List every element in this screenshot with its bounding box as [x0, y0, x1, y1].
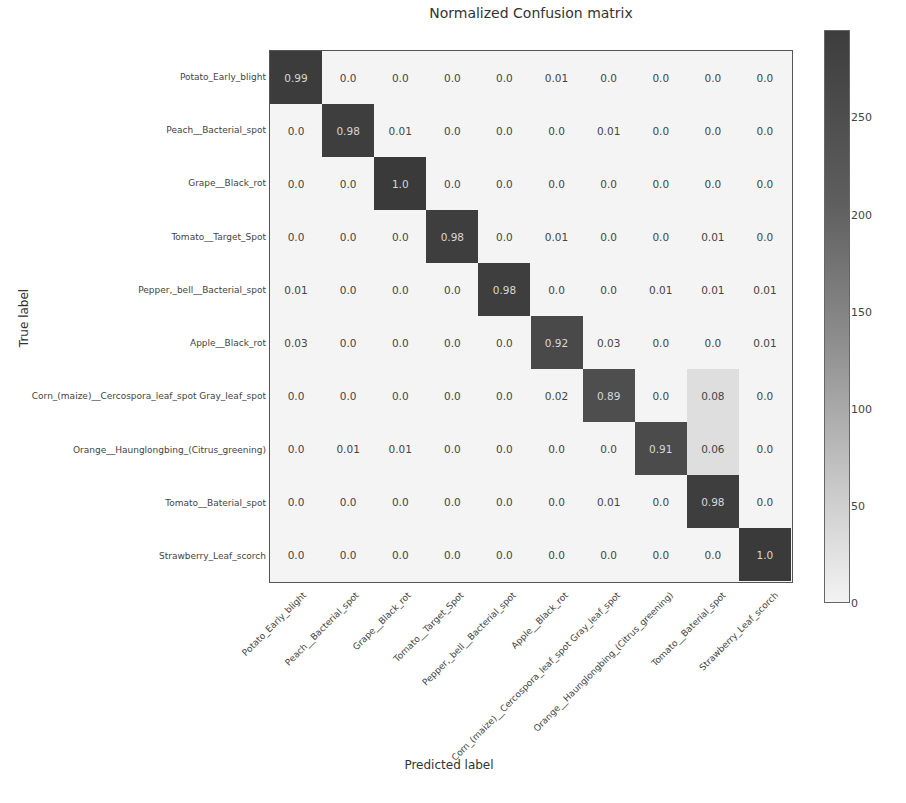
y-tick-label: Tomato__Baterial_spot — [165, 498, 266, 508]
matrix-cell: 0.0 — [478, 210, 530, 263]
matrix-cell: 0.0 — [583, 422, 635, 475]
matrix-cell: 0.0 — [739, 210, 791, 263]
matrix-cell: 0.0 — [687, 104, 739, 157]
matrix-cell: 0.01 — [374, 104, 426, 157]
matrix-cell: 0.0 — [531, 104, 583, 157]
matrix-cell: 0.0 — [635, 51, 687, 104]
matrix-cell: 1.0 — [374, 157, 426, 210]
matrix-cell: 0.0 — [426, 475, 478, 528]
matrix-cell: 0.08 — [687, 369, 739, 422]
matrix-cell: 0.0 — [635, 210, 687, 263]
matrix-cell: 0.0 — [374, 51, 426, 104]
matrix-cell: 0.98 — [478, 263, 530, 316]
x-tick-label: Grape__Black_rot — [351, 590, 413, 652]
matrix-cell: 0.0 — [739, 422, 791, 475]
matrix-cell: 0.0 — [426, 51, 478, 104]
colorbar-tick-label: 100 — [851, 402, 872, 415]
x-axis-title: Predicted label — [404, 758, 493, 772]
matrix-cell: 0.01 — [687, 263, 739, 316]
matrix-cell: 0.01 — [531, 210, 583, 263]
chart-title: Normalized Confusion matrix — [269, 5, 793, 21]
matrix-cell: 0.0 — [687, 316, 739, 369]
matrix-cell: 0.0 — [374, 528, 426, 581]
y-tick-label: Grape__Black_rot — [188, 178, 266, 188]
matrix-cell: 0.0 — [635, 528, 687, 581]
matrix-cell: 0.0 — [739, 104, 791, 157]
matrix-cell: 0.0 — [270, 104, 322, 157]
matrix-cell: 0.0 — [531, 157, 583, 210]
matrix-cell: 0.0 — [426, 104, 478, 157]
matrix-cell: 0.0 — [270, 369, 322, 422]
matrix-cell: 0.0 — [478, 475, 530, 528]
matrix-cell: 0.0 — [531, 263, 583, 316]
matrix-cell: 0.01 — [270, 263, 322, 316]
matrix-cell: 1.0 — [739, 528, 791, 581]
matrix-cell: 0.0 — [270, 210, 322, 263]
matrix-cell: 0.0 — [322, 157, 374, 210]
matrix-cell: 0.0 — [374, 316, 426, 369]
matrix-cell: 0.01 — [583, 475, 635, 528]
matrix-cell: 0.0 — [270, 422, 322, 475]
y-tick-label: Corn_(maize)__Cercospora_leaf_spot Gray_… — [32, 391, 266, 401]
matrix-cell: 0.0 — [739, 51, 791, 104]
matrix-cell: 0.0 — [426, 422, 478, 475]
matrix-cell: 0.0 — [478, 528, 530, 581]
matrix-cell: 0.0 — [426, 528, 478, 581]
colorbar-tick-label: 200 — [851, 208, 872, 221]
matrix-cell: 0.98 — [322, 104, 374, 157]
matrix-cell: 0.0 — [270, 157, 322, 210]
matrix-cell: 0.01 — [739, 263, 791, 316]
matrix-cell: 0.0 — [426, 369, 478, 422]
matrix-cell: 0.0 — [739, 475, 791, 528]
matrix-cell: 0.0 — [374, 210, 426, 263]
matrix-cell: 0.0 — [687, 528, 739, 581]
matrix-cell: 0.0 — [635, 369, 687, 422]
x-tick-label: Pepper,_bell__Bacterial_spot — [420, 590, 517, 687]
matrix-cell: 0.01 — [635, 263, 687, 316]
matrix-cell: 0.01 — [374, 422, 426, 475]
matrix-cell: 0.0 — [270, 528, 322, 581]
matrix-cell: 0.0 — [426, 316, 478, 369]
matrix-cell: 0.0 — [322, 316, 374, 369]
y-tick-label: Tomato__Target_Spot — [171, 232, 266, 242]
matrix-cell: 0.0 — [531, 528, 583, 581]
matrix-cell: 0.0 — [478, 104, 530, 157]
y-tick-label: Orange__Haunglongbing_(Citrus_greening) — [73, 445, 266, 455]
matrix-cell: 0.0 — [374, 475, 426, 528]
matrix-cell: 0.0 — [583, 51, 635, 104]
matrix-cell: 0.0 — [583, 157, 635, 210]
y-axis-title: True label — [17, 289, 31, 347]
matrix-cell: 0.0 — [583, 210, 635, 263]
matrix-cell: 0.03 — [270, 316, 322, 369]
matrix-cell: 0.0 — [322, 210, 374, 263]
colorbar-tick-label: 50 — [851, 499, 865, 512]
matrix-cell: 0.0 — [322, 528, 374, 581]
matrix-cell: 0.98 — [426, 210, 478, 263]
matrix-cell: 0.92 — [531, 316, 583, 369]
matrix-cell: 0.99 — [270, 51, 322, 104]
matrix-cell: 0.0 — [531, 475, 583, 528]
confusion-matrix: 0.990.00.00.00.00.010.00.00.00.00.00.980… — [269, 50, 793, 583]
matrix-cell: 0.89 — [583, 369, 635, 422]
matrix-cell: 0.0 — [635, 316, 687, 369]
matrix-cell: 0.0 — [687, 157, 739, 210]
matrix-cell: 0.0 — [687, 51, 739, 104]
matrix-cell: 0.01 — [531, 51, 583, 104]
y-tick-label: Pepper,_bell__Bacterial_spot — [138, 285, 266, 295]
matrix-cell: 0.0 — [635, 104, 687, 157]
matrix-cell: 0.0 — [531, 422, 583, 475]
matrix-cell: 0.0 — [426, 263, 478, 316]
matrix-cell: 0.0 — [270, 475, 322, 528]
matrix-cell: 0.0 — [739, 369, 791, 422]
matrix-cell: 0.0 — [322, 51, 374, 104]
matrix-cell: 0.01 — [322, 422, 374, 475]
matrix-cell: 0.0 — [478, 157, 530, 210]
matrix-cell: 0.0 — [374, 369, 426, 422]
x-tick-label: Apple__Black_rot — [509, 590, 570, 651]
matrix-cell: 0.0 — [583, 263, 635, 316]
matrix-cell: 0.0 — [322, 263, 374, 316]
matrix-cell: 0.91 — [635, 422, 687, 475]
matrix-cell: 0.0 — [635, 157, 687, 210]
matrix-cell: 0.01 — [583, 104, 635, 157]
matrix-cell: 0.0 — [478, 422, 530, 475]
